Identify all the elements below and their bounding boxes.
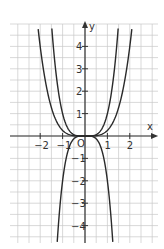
- y-tick-label: 3: [76, 64, 82, 75]
- grid-lines: [10, 24, 158, 243]
- y-tick-label: −1: [71, 153, 86, 164]
- y-tick-label: 1: [76, 109, 82, 120]
- axes: x y O: [10, 21, 158, 243]
- y-tick-label: 2: [76, 86, 82, 97]
- x-axis-label: x: [147, 121, 153, 132]
- y-tick-label: 4: [76, 41, 82, 52]
- origin-label: O: [77, 138, 85, 149]
- y-tick-label: −4: [71, 221, 86, 232]
- y-axis-label: y: [89, 21, 95, 32]
- function-graph: x y O −2−1124321−1−2−3−4: [0, 0, 164, 249]
- x-tick-label: 1: [104, 140, 110, 151]
- x-tick-label: −2: [34, 140, 49, 151]
- y-axis-arrow-icon: [82, 21, 88, 28]
- y-tick-label: −3: [71, 198, 86, 209]
- x-axis-arrow-icon: [151, 133, 158, 139]
- x-tick-label: 2: [127, 140, 133, 151]
- y-tick-label: −2: [71, 176, 86, 187]
